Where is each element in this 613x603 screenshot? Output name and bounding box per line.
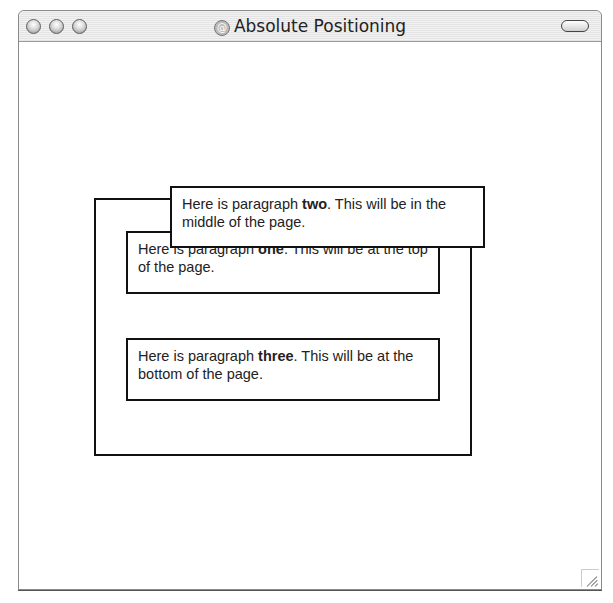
- at-sign-icon: @: [214, 20, 230, 36]
- paragraph-three-prefix: Here is paragraph: [138, 348, 258, 364]
- title-bar[interactable]: @Absolute Positioning: [19, 11, 601, 42]
- paragraph-three-bold: three: [258, 348, 293, 364]
- paragraph-three: Here is paragraph three. This will be at…: [126, 338, 440, 401]
- paragraph-two-prefix: Here is paragraph: [182, 196, 302, 212]
- page-content: Here is paragraph one. This will be at t…: [19, 42, 601, 589]
- browser-window: @Absolute Positioning Here is paragraph …: [18, 10, 602, 590]
- window-title: @Absolute Positioning: [19, 16, 601, 36]
- paragraph-two-bold: two: [302, 196, 327, 212]
- toolbar-toggle-button[interactable]: [561, 20, 589, 32]
- paragraph-two: Here is paragraph two. This will be in t…: [170, 186, 485, 248]
- window-title-text: Absolute Positioning: [234, 16, 406, 36]
- resize-handle-icon[interactable]: [581, 569, 599, 587]
